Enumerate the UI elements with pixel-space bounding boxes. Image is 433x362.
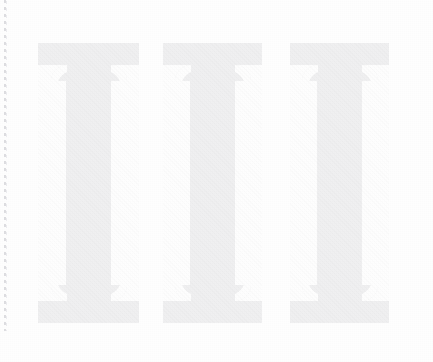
fillet-top-right bbox=[235, 65, 251, 81]
roman-numeral-stroke-2: I bbox=[163, 43, 262, 323]
roman-numeral-stroke-1: I bbox=[38, 43, 139, 323]
roman-numeral-stroke-3: I bbox=[290, 43, 389, 323]
fillet-bottom-right bbox=[235, 285, 251, 301]
fillet-bottom-left bbox=[175, 285, 191, 301]
serif-bottom bbox=[38, 301, 139, 323]
serif-bottom bbox=[290, 301, 389, 323]
fillet-bottom-right bbox=[362, 285, 378, 301]
fillet-top-right bbox=[362, 65, 378, 81]
serif-bottom bbox=[163, 301, 262, 323]
fillet-top-right bbox=[111, 65, 127, 81]
fillet-top-left bbox=[51, 65, 67, 81]
fillet-top-left bbox=[302, 65, 318, 81]
scanned-page: I I I bbox=[0, 0, 433, 362]
glyph-stem bbox=[317, 43, 362, 323]
fillet-top-left bbox=[175, 65, 191, 81]
roman-numeral-iii: I I I bbox=[0, 0, 433, 362]
glyph-stem bbox=[66, 43, 111, 323]
glyph-stem bbox=[190, 43, 235, 323]
fillet-bottom-left bbox=[302, 285, 318, 301]
fillet-bottom-right bbox=[111, 285, 127, 301]
fillet-bottom-left bbox=[51, 285, 67, 301]
